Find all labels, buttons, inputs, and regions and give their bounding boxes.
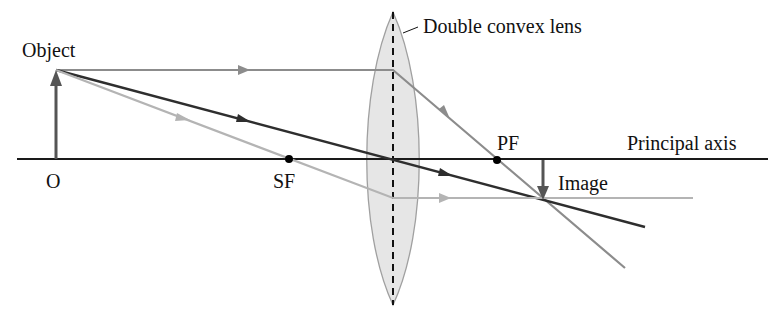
sf-point — [285, 155, 293, 163]
ray-central — [56, 70, 645, 227]
ray-arrow-icon — [438, 168, 453, 176]
pf-point — [493, 156, 501, 164]
image-label: Image — [558, 173, 608, 193]
ray-parallel — [56, 70, 625, 268]
sf-label: SF — [273, 171, 295, 191]
lens-label-leader — [403, 27, 418, 33]
lens-ray-diagram — [0, 0, 784, 321]
origin-label: O — [46, 171, 60, 191]
ray-arrow-icon — [236, 114, 251, 122]
principal-axis-label: Principal axis — [627, 133, 736, 153]
object-label: Object — [22, 40, 75, 60]
ray-arrow-icon — [439, 193, 451, 203]
pf-label: PF — [497, 133, 519, 153]
ray-arrow-icon — [175, 113, 190, 121]
ray-arrow-icon — [238, 65, 250, 75]
lens-label: Double convex lens — [423, 16, 582, 36]
